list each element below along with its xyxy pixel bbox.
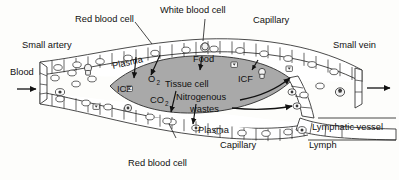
label-lymphatic-vessel: Lymphatic vessel — [312, 122, 383, 132]
svg-text:CO: CO — [150, 95, 164, 105]
label-nitrogenous-wastes-line1: Nitrogenous — [176, 92, 226, 102]
lymph-cell-icon — [298, 127, 306, 134]
label-nitrogenous-wastes-line2: wastes — [189, 104, 219, 114]
label-food: Food — [193, 54, 214, 64]
label-lymph: Lymph — [309, 140, 337, 150]
label-small-artery: Small artery — [22, 40, 72, 50]
label-blood-inflow: Blood — [10, 67, 34, 77]
label-capillary-top: Capillary — [253, 15, 290, 25]
label-icf-right: ICF — [238, 74, 253, 84]
diapedesis-cell-glyph — [163, 118, 171, 124]
svg-text:2: 2 — [165, 100, 169, 107]
svg-text:O: O — [148, 74, 155, 84]
icf-marker-icon-3 — [286, 66, 292, 71]
white-blood-cell-glyph — [201, 43, 210, 52]
label-white-blood-cell: White blood cell — [160, 5, 226, 15]
leader-red-blood-cell-top — [135, 22, 152, 44]
tissue-fluid-cell-glyph — [259, 68, 266, 78]
label-capillary-bottom: Capillary — [220, 140, 257, 150]
leader-white-blood-cell — [203, 19, 205, 41]
capillary-exchange-diagram: Red blood cell White blood cell Capillar… — [0, 0, 399, 180]
icf-marker-icon-2 — [231, 62, 237, 67]
diagram-canvas: Red blood cell White blood cell Capillar… — [0, 0, 399, 180]
label-tissue-cell: Tissue cell — [165, 79, 209, 89]
small-artery-opening — [40, 62, 47, 104]
icf-marker-icon-4 — [93, 104, 99, 109]
label-icf-left: ICF — [117, 84, 132, 94]
svg-text:2: 2 — [157, 79, 161, 86]
label-red-blood-cell-top: Red blood cell — [75, 14, 134, 24]
label-small-vein: Small vein — [333, 40, 376, 50]
label-plasma-bottom: Plasma — [198, 125, 230, 135]
small-vein-opening — [355, 68, 362, 108]
label-red-blood-cell-bottom: Red blood cell — [128, 158, 187, 168]
vein-blood-cells — [300, 83, 345, 98]
